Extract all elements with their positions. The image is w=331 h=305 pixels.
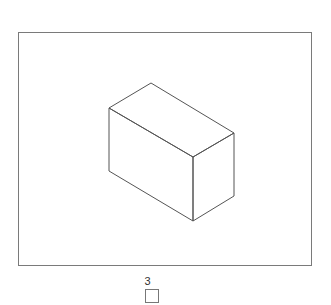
option-checkbox[interactable] [145, 289, 159, 303]
left-face [109, 108, 193, 221]
isometric-box-drawing [0, 0, 331, 305]
option-label: 3 [0, 275, 313, 287]
top-face [109, 83, 234, 157]
right-face [193, 133, 234, 221]
